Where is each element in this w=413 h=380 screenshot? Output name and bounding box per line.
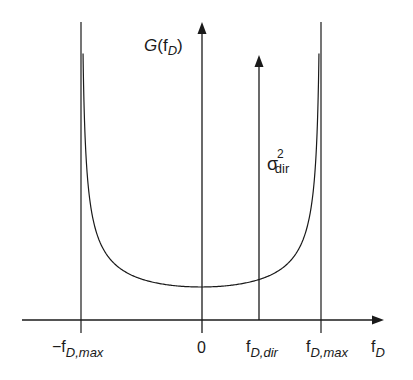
tick-label-fdir: fD,dir — [246, 338, 279, 360]
tick-label-fmax: fD,max — [306, 338, 349, 360]
y-axis-label: G(fD) — [144, 36, 183, 58]
tick-label-zero: 0 — [197, 339, 206, 356]
x-axis-arrowhead-icon — [372, 316, 384, 325]
direct-component-arrowhead-icon — [255, 55, 264, 67]
direct-component-label: σ2dir — [267, 147, 290, 176]
tick-label-neg-fmax: −fD,max — [52, 338, 104, 360]
doppler-spectrum-diagram: G(fD) σ2dir −fD,max 0 fD,dir fD,max fD — [0, 0, 413, 380]
y-axis-arrowhead-icon — [198, 22, 207, 34]
x-axis-label: fD — [371, 338, 385, 360]
